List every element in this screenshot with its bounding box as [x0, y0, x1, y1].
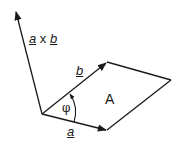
vector-b: [42, 63, 106, 114]
parallelogram-side-top: [107, 62, 171, 80]
angle-arc: [70, 94, 75, 122]
vector-a-label: a: [67, 125, 74, 138]
cross-label-x: x: [36, 31, 50, 46]
area-label: A: [105, 92, 114, 106]
vector-b-label: b: [76, 64, 83, 77]
vector-a-cross-b: [16, 12, 42, 114]
parallelogram-side-right: [107, 80, 171, 130]
cross-product-label: a x b: [29, 32, 57, 45]
angle-phi-label: φ: [62, 102, 70, 114]
cross-product-diagram: [0, 0, 183, 149]
cross-label-b: b: [50, 31, 57, 46]
